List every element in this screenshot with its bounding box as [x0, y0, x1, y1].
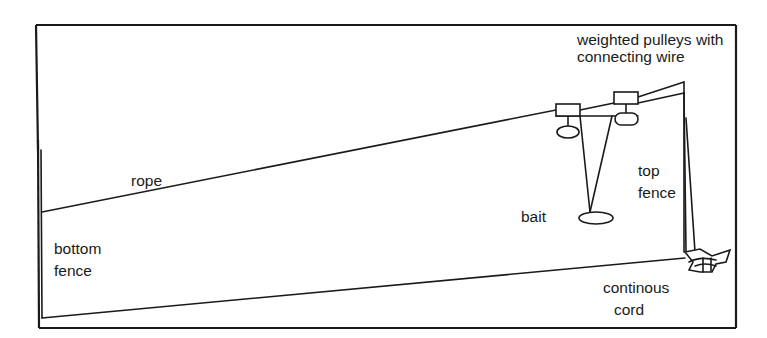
label-top-fence-line1: top: [638, 162, 660, 179]
label-bottom-fence-line1: bottom: [54, 240, 101, 257]
weighted-pulley-1: [556, 104, 580, 138]
label-bottom-fence-line2: fence: [54, 262, 92, 279]
weighted-pulley-2: [614, 92, 638, 125]
label-bait: bait: [521, 208, 547, 225]
bait: [579, 116, 613, 224]
trap-diagram: weighted pulleys with connecting wire ro…: [0, 0, 767, 338]
label-pulleys-line1: weighted pulleys with: [576, 31, 723, 48]
cord-knot: [685, 249, 730, 272]
label-rope: rope: [131, 172, 162, 189]
top-fence-lines: [684, 82, 695, 252]
label-cord-line1: continous: [603, 279, 670, 296]
label-top-fence-line2: fence: [638, 184, 676, 201]
bottom-fence-line: [42, 258, 685, 318]
label-cord-line2: cord: [614, 301, 644, 318]
label-pulleys-line2: connecting wire: [577, 48, 685, 65]
